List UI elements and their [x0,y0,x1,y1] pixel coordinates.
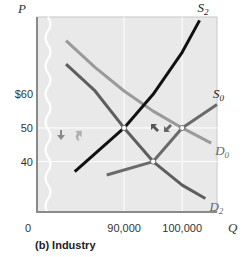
y-tick-label: 40 [21,156,33,168]
y-axis-label: P [17,1,26,16]
x-axis-label: Q [228,220,238,235]
chart-caption: (b) Industry [35,239,96,251]
equilibrium-point [151,159,156,164]
label-d0: D0 [214,143,229,160]
plot-background [37,17,217,212]
label-s2: S2 [198,0,210,17]
equilibrium-point [180,125,185,130]
industry-chart: D0D2S2S0$60504090,000100,000 P Q 0 (b) I… [0,0,249,257]
x-tick-label: 100,000 [162,222,202,234]
origin-label: 0 [25,222,31,234]
equilibrium-point [121,125,126,130]
label-s0: S0 [213,86,225,103]
y-tick-label: 50 [21,122,33,134]
y-tick-label: $60 [15,88,33,100]
x-tick-label: 90,000 [107,222,141,234]
label-d2: D2 [208,199,223,216]
